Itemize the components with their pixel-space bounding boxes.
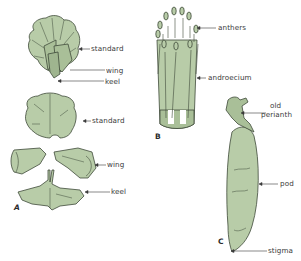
panel-letter-b: B [155, 133, 161, 141]
label-keel-dissected: keel [111, 188, 126, 195]
standard-petal-drawing [25, 93, 76, 138]
panel-letter-c: C [218, 238, 224, 246]
label-wing-dissected: wing [107, 161, 124, 168]
label-stigma: stigma [268, 247, 293, 254]
label-standard-whole: standard [91, 45, 124, 52]
label-pod: pod [280, 180, 294, 187]
androecium-drawing [156, 7, 198, 129]
label-standard-dissected: standard [92, 117, 125, 124]
whole-flower-drawing [28, 16, 79, 78]
keel-petal-drawing [18, 170, 84, 210]
botanical-diagram [0, 0, 301, 261]
label-keel-whole: keel [105, 78, 120, 85]
label-old-perianth-line2: perianth [261, 111, 292, 118]
panel-letter-a: A [14, 204, 20, 212]
label-old-perianth-line1: old [270, 102, 281, 109]
label-androecium: androecium [208, 74, 252, 81]
pod-drawing [226, 97, 258, 252]
label-wing-whole: wing [106, 67, 123, 74]
label-anthers: anthers [218, 24, 246, 31]
